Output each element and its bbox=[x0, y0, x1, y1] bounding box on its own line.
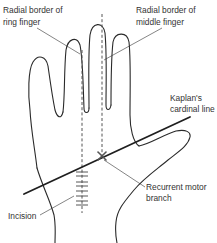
kaplan-label-line2: cardinal line bbox=[170, 104, 215, 114]
motor-branch-label-line1: Recurrent motor bbox=[146, 182, 207, 192]
hand-landmark-diagram: Radial border of ring finger Radial bord… bbox=[0, 0, 217, 243]
motor-branch-leader bbox=[104, 160, 145, 187]
middle-finger-label-line2: middle finger bbox=[136, 17, 184, 27]
incision-leader bbox=[40, 196, 74, 215]
ring-finger-label-line2: ring finger bbox=[3, 17, 40, 27]
kaplan-label-line1: Kaplan's bbox=[170, 93, 202, 103]
ring-finger-leader bbox=[37, 28, 80, 54]
incision-label: Incision bbox=[8, 211, 37, 221]
hand-outline bbox=[29, 25, 190, 243]
middle-finger-label-line1: Radial border of bbox=[136, 5, 196, 15]
ring-finger-label-line1: Radial border of bbox=[3, 5, 63, 15]
motor-branch-label-line2: branch bbox=[146, 193, 172, 203]
